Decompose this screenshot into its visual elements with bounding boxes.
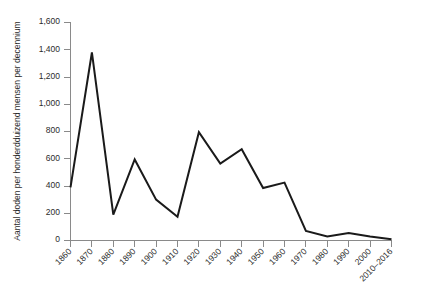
x-tick-label-1900: 1900 [139, 246, 160, 267]
x-tick-label-1870: 1870 [74, 246, 95, 267]
series-line-deaths-per-decade [71, 52, 392, 239]
y-tick-label-0: 0 [55, 234, 60, 244]
x-tick-label-1970: 1970 [288, 246, 309, 267]
x-tick-label-1890: 1890 [117, 246, 138, 267]
x-tick-label-1940: 1940 [224, 246, 245, 267]
y-tick-label-800: 800 [46, 125, 60, 135]
y-tick-label-1400: 1,400 [39, 44, 61, 54]
y-tick-label-600: 600 [46, 153, 60, 163]
x-tick-label-1960: 1960 [267, 246, 288, 267]
x-tick-label-1930: 1930 [203, 246, 224, 267]
x-tick-label-1920: 1920 [181, 246, 202, 267]
x-tick-label-1880: 1880 [96, 246, 117, 267]
y-axis-title: Aantal doden per honderdduizend mensen p… [12, 21, 22, 240]
y-tick-label-200: 200 [46, 207, 60, 217]
x-tick-label-1860: 1860 [53, 246, 74, 267]
y-tick-label-1200: 1,200 [39, 71, 61, 81]
y-tick-label-1000: 1,000 [39, 98, 61, 108]
x-tick-label-1980: 1980 [310, 246, 331, 267]
x-tick-label-1950: 1950 [246, 246, 267, 267]
x-tick-label-1990: 1990 [331, 246, 352, 267]
chart-container: Aantal doden per honderdduizend mensen p… [0, 0, 432, 297]
x-tick-label-1910: 1910 [160, 246, 181, 267]
y-tick-label-1600: 1,600 [39, 16, 61, 26]
line-chart-plot: Aantal doden per honderdduizend mensen p… [0, 0, 432, 297]
y-tick-label-400: 400 [46, 180, 60, 190]
